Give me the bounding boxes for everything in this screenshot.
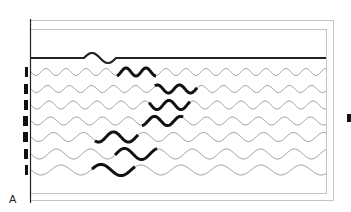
wave-highlight-segment [155, 85, 197, 93]
bar-marker [25, 67, 28, 77]
bar-marker [24, 100, 28, 110]
bar-marker [24, 149, 28, 159]
wave-trace [31, 69, 326, 76]
wave-highlight-segment [117, 68, 156, 76]
right-bar-marker [347, 114, 351, 122]
figure-canvas [0, 0, 351, 212]
left-bar-markers [23, 67, 28, 175]
top-trace [31, 53, 326, 63]
wave-traces [31, 68, 326, 176]
bar-marker [24, 84, 28, 94]
bar-marker [25, 165, 28, 175]
wave-highlight-segment [149, 100, 190, 109]
wave-trace [31, 133, 326, 142]
wave-trace [31, 165, 326, 175]
top-trace-line [31, 53, 326, 63]
wave-trace [31, 149, 326, 159]
panel-label: A [9, 193, 16, 205]
wave-highlight-segment [92, 164, 135, 175]
wave-highlight-segment [115, 148, 157, 159]
wave-highlight-segment [95, 132, 138, 142]
wave-highlight-segment [142, 116, 183, 125]
bar-marker [23, 116, 28, 126]
inner-frame [31, 30, 327, 194]
bar-marker [23, 132, 28, 142]
